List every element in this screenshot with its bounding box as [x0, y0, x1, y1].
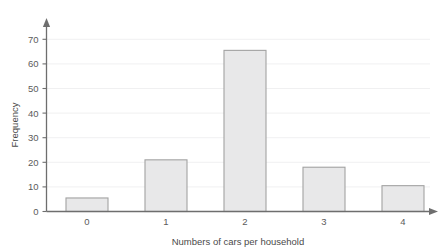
- bar-chart-figure: 010203040506070 01234 Numbers of cars pe…: [0, 0, 448, 252]
- x-axis-tick-label: 4: [400, 216, 405, 227]
- y-axis-tick-label: 10: [28, 181, 39, 192]
- y-axis-tick-label: 60: [28, 58, 39, 69]
- y-axis-tick-label: 70: [28, 34, 39, 45]
- x-axis-tick-labels: 01234: [84, 216, 405, 227]
- y-axis-tick-label: 0: [33, 206, 38, 217]
- x-axis-tick-label: 1: [163, 216, 168, 227]
- x-axis-tick-label: 0: [84, 216, 89, 227]
- y-axis-arrow-icon: [43, 18, 50, 27]
- y-axis-title: Frequency: [9, 102, 20, 147]
- bar: [303, 167, 345, 211]
- y-axis-tick-label: 50: [28, 83, 39, 94]
- x-axis-title: Numbers of cars per household: [172, 236, 305, 247]
- x-axis-arrow-icon: [429, 208, 438, 215]
- bar: [66, 198, 108, 212]
- chart-canvas: 010203040506070 01234 Numbers of cars pe…: [0, 0, 448, 252]
- x-axis-tick-label: 3: [321, 216, 326, 227]
- bars: [66, 50, 424, 211]
- y-axis-tick-label: 40: [28, 108, 39, 119]
- bar: [224, 50, 266, 211]
- y-axis-tick-label: 30: [28, 132, 39, 143]
- x-axis-tick-label: 2: [242, 216, 247, 227]
- bar: [145, 160, 187, 212]
- bar: [382, 186, 424, 212]
- y-axis-tick-label: 20: [28, 157, 39, 168]
- y-axis-ticks: 010203040506070: [28, 34, 47, 217]
